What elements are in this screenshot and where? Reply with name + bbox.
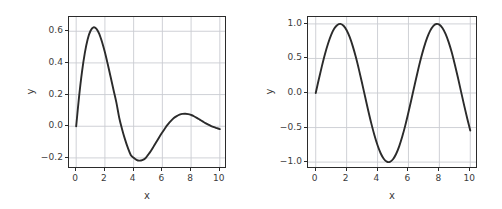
x-tick-label: 2	[101, 173, 107, 183]
x-tick-label: 4	[374, 173, 380, 183]
x-tick-label: 2	[343, 173, 349, 183]
y-axis-label-damped-sine: y	[25, 89, 36, 95]
y-axis-label-sine: y	[264, 89, 275, 95]
x-tick-mark	[438, 168, 439, 171]
axes-area-sine	[307, 16, 477, 168]
y-tick-mark	[65, 62, 68, 63]
data-series-line	[76, 27, 220, 160]
x-tick-mark	[377, 168, 378, 171]
x-tick-label: 8	[435, 173, 441, 183]
y-tick-label: 0.0	[22, 120, 63, 130]
y-tick-mark	[65, 125, 68, 126]
x-tick-mark	[469, 168, 470, 171]
y-tick-label: 0.4	[22, 57, 63, 67]
x-tick-mark	[104, 168, 105, 171]
x-tick-mark	[219, 168, 220, 171]
x-tick-mark	[407, 168, 408, 171]
x-tick-label: 8	[187, 173, 193, 183]
x-tick-label: 10	[213, 173, 225, 183]
plot-line-sine	[308, 17, 477, 168]
y-tick-mark	[65, 30, 68, 31]
x-axis-label-damped-sine: x	[144, 190, 150, 201]
x-tick-mark	[190, 168, 191, 171]
x-tick-label: 6	[405, 173, 411, 183]
y-tick-label: 0.5	[261, 52, 302, 62]
x-tick-mark	[133, 168, 134, 171]
y-tick-mark	[304, 23, 307, 24]
x-tick-label: 0	[312, 173, 318, 183]
x-tick-mark	[75, 168, 76, 171]
x-tick-mark	[346, 168, 347, 171]
x-tick-label: 4	[130, 173, 136, 183]
subplot-damped-sine: 0246810−0.20.00.20.40.6 x y	[0, 0, 251, 209]
x-axis-label-sine: x	[389, 190, 395, 201]
y-tick-label: −0.5	[261, 122, 302, 132]
x-tick-mark	[315, 168, 316, 171]
y-tick-label: −1.0	[261, 156, 302, 166]
x-tick-label: 10	[463, 173, 475, 183]
y-tick-mark	[304, 57, 307, 58]
y-tick-label: 0.6	[22, 25, 63, 35]
y-tick-mark	[304, 161, 307, 162]
y-tick-mark	[304, 127, 307, 128]
y-tick-mark	[304, 92, 307, 93]
y-tick-mark	[65, 157, 68, 158]
subplot-sine: 0246810−1.0−0.50.00.51.0 x y	[251, 0, 502, 209]
y-tick-mark	[65, 94, 68, 95]
axes-area-damped-sine	[68, 16, 226, 168]
x-tick-mark	[161, 168, 162, 171]
plot-line-damped-sine	[69, 17, 226, 168]
figure-canvas: 0246810−0.20.00.20.40.6 x y 0246810−1.0−…	[0, 0, 502, 209]
y-tick-label: −0.2	[22, 152, 63, 162]
x-tick-label: 0	[72, 173, 78, 183]
y-tick-label: 1.0	[261, 18, 302, 28]
x-tick-label: 6	[158, 173, 164, 183]
